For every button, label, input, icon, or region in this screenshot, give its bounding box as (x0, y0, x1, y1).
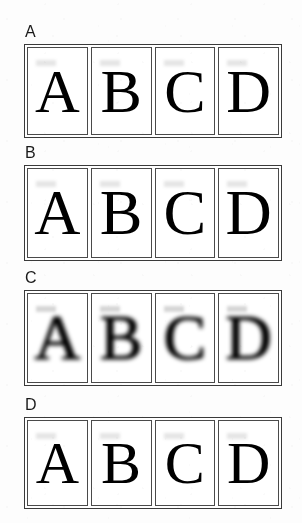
letter-glyph: B (100, 60, 141, 122)
letter-glyph: A (35, 60, 80, 122)
panel-frame-b: A B C D (24, 165, 282, 261)
panel-label-d: D (25, 397, 37, 413)
letter-cell: A (27, 293, 88, 383)
letter-cell: C (155, 420, 216, 506)
panel-label-b: B (25, 145, 36, 161)
letter-cell: D (218, 293, 279, 383)
letter-cell: C (155, 168, 216, 258)
cell-row-a: A B C D (27, 47, 279, 135)
letter-cell: D (218, 47, 279, 135)
letter-cell: C (155, 293, 216, 383)
cell-row-d: A B C D (27, 420, 279, 506)
letter-glyph: B (100, 306, 143, 370)
cell-row-c: A B C D (27, 293, 279, 383)
panel-label-a: A (25, 24, 36, 40)
letter-glyph: D (227, 433, 270, 493)
letter-cell: B (91, 168, 152, 258)
panel-frame-a: A B C D (24, 44, 282, 138)
letter-cell: A (27, 47, 88, 135)
letter-glyph: D (226, 60, 271, 122)
letter-glyph: B (100, 181, 143, 245)
letter-glyph: A (34, 306, 80, 370)
letter-cell: D (218, 420, 279, 506)
letter-glyph: D (226, 181, 272, 245)
letter-cell: B (91, 47, 152, 135)
letter-glyph: C (164, 181, 207, 245)
panel-frame-d: A B C D (24, 417, 282, 509)
letter-cell: D (218, 168, 279, 258)
figure-root: A A B C D B A (0, 0, 302, 523)
letter-cell: A (27, 420, 88, 506)
letter-cell: C (155, 47, 216, 135)
letter-cell: B (91, 420, 152, 506)
letter-cell: A (27, 168, 88, 258)
letter-glyph: C (164, 306, 207, 370)
letter-glyph: B (101, 433, 141, 493)
letter-glyph: C (165, 433, 205, 493)
panel-frame-c: A B C D (24, 290, 282, 386)
panel-label-c: C (25, 270, 37, 286)
letter-glyph: A (36, 433, 79, 493)
letter-cell: B (91, 293, 152, 383)
letter-glyph: A (34, 181, 80, 245)
letter-glyph: D (226, 306, 272, 370)
cell-row-b: A B C D (27, 168, 279, 258)
letter-glyph: C (164, 60, 205, 122)
